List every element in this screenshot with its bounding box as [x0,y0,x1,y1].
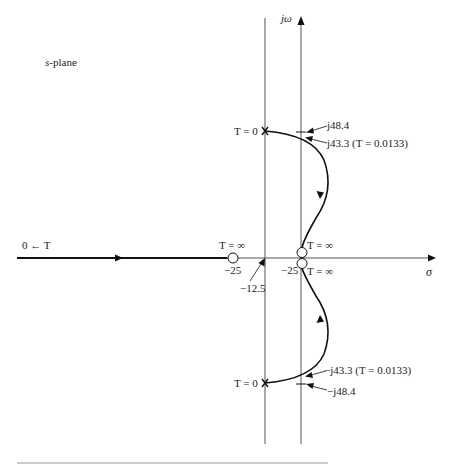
lower-locus-arrow-icon [317,315,325,323]
lower-j48-label: −j48.4 [327,386,356,397]
zero-left-value-label: −25 [224,265,241,276]
zero-double-lower-T-label: T = ∞ [307,266,333,277]
real-axis-arrow-icon [428,255,436,262]
real-axis-label: σ [426,266,432,278]
pointer-j43-upper [311,139,327,143]
pointer-breakpoint [250,264,261,281]
pole-lower-T-label: T = 0 [234,378,258,389]
pole-upper-T-label: T = 0 [234,126,258,137]
upper-j43-label: j43.3 (T = 0.0133) [327,138,408,149]
imaginary-axis-label: jω [281,13,292,24]
start-label: 0 ← T [22,240,51,251]
real-locus-arrow-icon [115,255,123,262]
pointer-breakpoint-arrow-icon [259,258,266,267]
lower-j43-label: −j43.3 (T = 0.0133) [324,365,411,376]
plane-label: s-plane [45,57,77,68]
pointer-j48-lower-arrow-icon [306,383,314,389]
zero-double-value-label: −25 [281,265,298,276]
zero-double-upper-T-label: T = ∞ [307,240,333,251]
zero-left-T-label: T = ∞ [219,240,245,251]
pointer-j48-upper-arrow-icon [306,128,314,134]
root-locus-diagram [0,0,452,468]
zero-left-icon [228,253,238,263]
imaginary-axis-arrow-icon [298,16,305,25]
upper-locus-arrow-icon [317,191,325,199]
plane-label-rest: -plane [49,56,76,68]
lower-locus-branch [265,268,328,383]
zero-double-upper-icon [297,248,307,258]
zero-double-lower-icon [297,259,307,269]
upper-j48-label: j48.4 [327,120,349,131]
breakpoint-label: −12.5 [240,283,265,294]
pointer-j48-lower [311,386,327,390]
upper-locus-branch [265,131,328,248]
